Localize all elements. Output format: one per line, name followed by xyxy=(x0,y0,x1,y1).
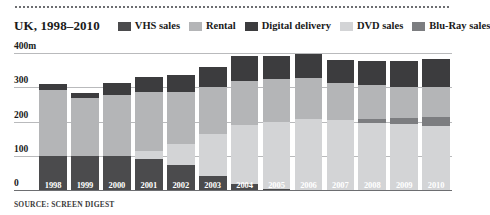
bar-segment-digital-delivery xyxy=(358,61,386,85)
legend-swatch-icon xyxy=(189,22,202,31)
bar-segment-rental xyxy=(295,78,323,119)
bar-segment-rental xyxy=(71,98,99,156)
bar-1998[interactable]: 1998 xyxy=(39,84,67,190)
bar-segment-digital-delivery xyxy=(103,83,131,95)
x-axis-tick-label: 2005 xyxy=(263,180,291,190)
bar-2009[interactable]: 2009 xyxy=(390,61,418,190)
legend-swatch-icon xyxy=(118,22,131,31)
bar-segment-rental xyxy=(103,95,131,156)
chart-legend: VHS salesRentalDigital deliveryDVD sales… xyxy=(118,21,490,32)
legend-swatch-icon xyxy=(340,22,353,31)
legend-item: Blu-Ray sales xyxy=(412,21,490,32)
bar-2001[interactable]: 2001 xyxy=(135,77,163,190)
legend-label: Rental xyxy=(206,21,236,32)
bar-segment-digital-delivery xyxy=(199,67,227,87)
plot-area: 0100200300400m 1998199920002001200220032… xyxy=(0,40,457,200)
chart-title: UK, 1998–2010 xyxy=(14,18,100,34)
bar-segment-rental xyxy=(327,83,355,120)
x-axis-tick-label: 1999 xyxy=(71,180,99,190)
legend-swatch-icon xyxy=(412,22,425,31)
bar-segment-rental xyxy=(135,92,163,151)
legend-label: Digital delivery xyxy=(262,21,331,32)
chart-header: UK, 1998–2010 VHS salesRentalDigital del… xyxy=(14,17,452,35)
bar-segment-digital-delivery xyxy=(71,93,99,98)
x-axis-tick-label: 2009 xyxy=(390,180,418,190)
y-axis-tick-label: 100 xyxy=(14,144,28,156)
bar-segment-digital-delivery xyxy=(295,54,323,78)
bar-segment-blu-ray-sales xyxy=(358,119,386,122)
y-axis-tick-label: 300 xyxy=(14,76,28,88)
bar-segment-rental xyxy=(263,79,291,121)
bar-segment-digital-delivery xyxy=(422,59,450,87)
x-axis-tick-label: 2000 xyxy=(103,180,131,190)
bar-segment-blu-ray-sales xyxy=(390,118,418,124)
bar-segment-digital-delivery xyxy=(231,56,259,81)
legend-swatch-icon xyxy=(245,22,258,31)
y-axis-tick-label: 200 xyxy=(14,110,28,122)
source-note: SOURCE: SCREEN DIGEST xyxy=(14,200,114,209)
bar-group: 1998199920002001200220032004200520062007… xyxy=(38,40,453,200)
legend-item: Rental xyxy=(189,21,236,32)
bar-segment-rental xyxy=(422,87,450,117)
bar-segment-dvd-sales xyxy=(263,122,291,189)
bar-segment-digital-delivery xyxy=(39,84,67,90)
x-axis-tick-label: 2007 xyxy=(327,180,355,190)
x-axis-tick-label: 2004 xyxy=(231,180,259,190)
bar-segment-blu-ray-sales xyxy=(422,117,450,126)
bar-segment-rental xyxy=(231,81,259,125)
bar-segment-rental xyxy=(39,90,67,156)
bar-2005[interactable]: 2005 xyxy=(263,56,291,190)
bar-segment-dvd-sales xyxy=(199,134,227,177)
legend-label: Blu-Ray sales xyxy=(429,21,490,32)
x-axis-tick-label: 2010 xyxy=(422,180,450,190)
bar-2002[interactable]: 2002 xyxy=(167,75,195,190)
bar-2010[interactable]: 2010 xyxy=(422,59,450,190)
bar-2003[interactable]: 2003 xyxy=(199,67,227,190)
bar-segment-rental xyxy=(167,92,195,144)
bar-segment-dvd-sales xyxy=(167,144,195,165)
bar-segment-rental xyxy=(390,87,418,119)
bar-2006[interactable]: 2006 xyxy=(295,54,323,190)
bar-segment-digital-delivery xyxy=(135,77,163,92)
x-axis-tick-label: 2003 xyxy=(199,180,227,190)
bar-segment-digital-delivery xyxy=(390,61,418,87)
bar-segment-digital-delivery xyxy=(167,75,195,92)
bar-segment-rental xyxy=(199,87,227,133)
bar-2008[interactable]: 2008 xyxy=(358,61,386,190)
bar-1999[interactable]: 1999 xyxy=(71,93,99,190)
legend-item: VHS sales xyxy=(118,21,180,32)
x-axis-tick-label: 2002 xyxy=(167,180,195,190)
bar-2000[interactable]: 2000 xyxy=(103,83,131,190)
y-axis-tick-label: 0 xyxy=(14,179,19,191)
x-axis-tick-label: 1998 xyxy=(39,180,67,190)
bar-segment-digital-delivery xyxy=(327,60,355,83)
y-axis: 0100200300400m xyxy=(0,40,38,200)
x-axis-tick-label: 2006 xyxy=(295,180,323,190)
legend-item: Digital delivery xyxy=(245,21,331,32)
legend-item: DVD sales xyxy=(340,21,403,32)
bar-2004[interactable]: 2004 xyxy=(231,56,259,190)
x-axis-tick-label: 2001 xyxy=(135,180,163,190)
bar-2007[interactable]: 2007 xyxy=(327,60,355,190)
legend-label: VHS sales xyxy=(135,21,180,32)
y-axis-tick-label: 400m xyxy=(14,42,36,54)
legend-label: DVD sales xyxy=(357,21,403,32)
bar-segment-dvd-sales xyxy=(231,125,259,184)
bar-segment-digital-delivery xyxy=(263,56,291,79)
dotted-divider xyxy=(14,6,450,8)
bar-segment-rental xyxy=(358,85,386,119)
bar-segment-dvd-sales xyxy=(135,151,163,159)
x-axis-tick-label: 2008 xyxy=(358,180,386,190)
